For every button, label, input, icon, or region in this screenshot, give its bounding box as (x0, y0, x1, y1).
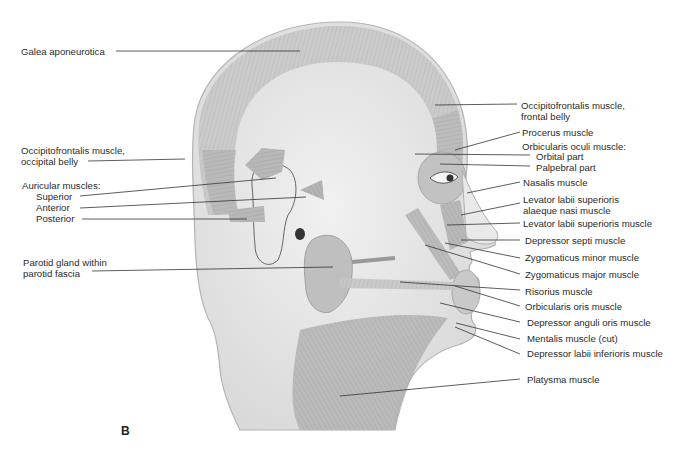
anatomy-figure: Galea aponeurotica Occipitofrontalis mus… (0, 0, 693, 453)
label-depressor-septi: Depressor septi muscle (525, 235, 625, 246)
label-parotid-line1: Parotid gland within (23, 257, 107, 268)
label-levator-alaeque-line2: alaeque nasi muscle (523, 205, 619, 216)
label-platysma: Platysma muscle (527, 374, 600, 385)
label-orbital-part: Orbital part (536, 151, 583, 162)
label-auricular-anterior: Anterior (36, 202, 70, 213)
label-galea-aponeurotica: Galea aponeurotica (21, 46, 105, 57)
label-depressor-labii-inferioris: Depressor labii inferioris muscle (527, 348, 663, 359)
label-auricular-posterior: Posterior (36, 213, 74, 224)
label-occipital-belly: Occipitofrontalis muscle, occipital bell… (21, 145, 125, 167)
platysma-shape (293, 315, 449, 430)
label-risorius: Risorius muscle (525, 286, 593, 297)
label-levator-labii-alaeque: Levator labii superioris alaeque nasi mu… (523, 194, 619, 216)
label-frontal-belly: Occipitofrontalis muscle, frontal belly (521, 100, 625, 122)
label-occipital-belly-line1: Occipitofrontalis muscle, (21, 145, 125, 156)
label-depressor-anguli-oris: Depressor anguli oris muscle (527, 317, 651, 328)
label-frontal-belly-line2: frontal belly (521, 111, 625, 122)
label-orbicularis-oris: Orbicularis oris muscle (525, 301, 622, 312)
label-parotid-gland: Parotid gland within parotid fascia (23, 257, 107, 279)
label-mentalis: Mentalis muscle (cut) (527, 333, 618, 344)
label-auricular-muscles-heading: Auricular muscles: (22, 180, 100, 191)
label-zygomaticus-minor: Zygomaticus minor muscle (525, 252, 639, 263)
label-nasalis: Nasalis muscle (523, 177, 588, 188)
nose (462, 170, 498, 244)
label-levator-labii-superioris: Levator labii superioris muscle (523, 218, 652, 229)
label-levator-alaeque-line1: Levator labii superioris (523, 194, 619, 205)
label-zygomaticus-major: Zygomaticus major muscle (525, 269, 639, 280)
label-parotid-line2: parotid fascia (23, 268, 107, 279)
label-palpebral-part: Palpebral part (536, 162, 596, 173)
label-occipital-belly-line2: occipital belly (21, 156, 125, 167)
label-procerus: Procerus muscle (522, 127, 593, 138)
label-auricular-superior: Superior (36, 191, 72, 202)
label-frontal-belly-line1: Occipitofrontalis muscle, (521, 100, 625, 111)
panel-label: B (121, 424, 130, 438)
